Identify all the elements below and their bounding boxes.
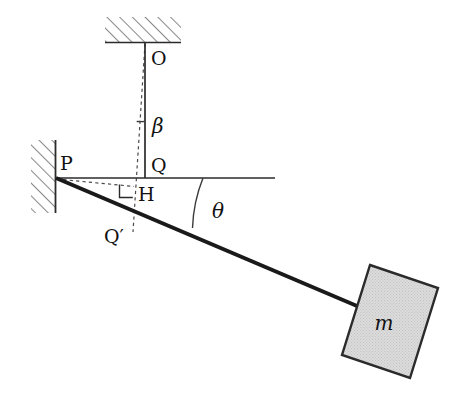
label-mass-m: m [375,311,394,335]
wall-hatch-fill [31,140,55,213]
label-H: H [138,183,155,205]
ceiling-hatch-fill [105,17,181,42]
ceiling-support [105,17,181,43]
diagram-canvas: O P Q H Q′ β θ m [0,0,471,417]
label-Q-prime: Q′ [104,225,124,247]
label-O: O [151,47,167,69]
diagram-labels: O P Q H Q′ β θ m [60,47,393,335]
structural-lines [56,43,357,306]
theta-angle-arc [193,178,204,228]
construction-lines [57,44,145,232]
physics-diagram: O P Q H Q′ β θ m [0,0,471,417]
label-Q: Q [151,154,167,176]
right-angle-marker-H [120,185,133,198]
rod-P-to-block [56,178,357,306]
wall-support [31,140,56,213]
label-beta: β [151,114,164,138]
label-theta: θ [212,199,224,223]
label-P: P [60,152,73,174]
